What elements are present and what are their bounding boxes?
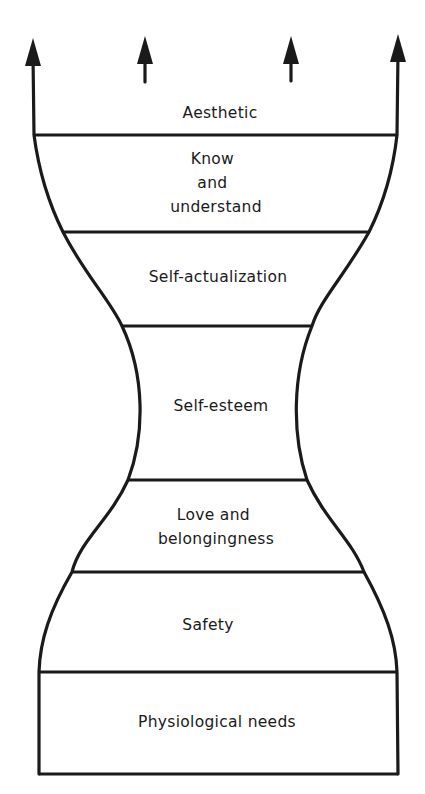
outline-right <box>296 52 398 774</box>
arrow-up-icon <box>137 36 153 82</box>
needs-hourglass-diagram: Aesthetic Know and understand Self-actua… <box>0 0 425 794</box>
level-label-know-understand: Know and understand <box>170 150 262 216</box>
level-label-aesthetic: Aesthetic <box>183 104 258 122</box>
level-label-self-esteem: Self-esteem <box>173 397 268 415</box>
level-label-love-belongingness: Love and belongingness <box>158 506 274 548</box>
level-label-safety: Safety <box>182 616 233 634</box>
arrow-up-icon <box>390 34 406 62</box>
outline-left <box>33 55 140 774</box>
level-label-physiological: Physiological needs <box>138 713 296 731</box>
level-label-self-actualization: Self-actualization <box>149 268 288 286</box>
arrow-up-icon <box>25 38 41 66</box>
arrow-up-icon <box>283 36 299 81</box>
